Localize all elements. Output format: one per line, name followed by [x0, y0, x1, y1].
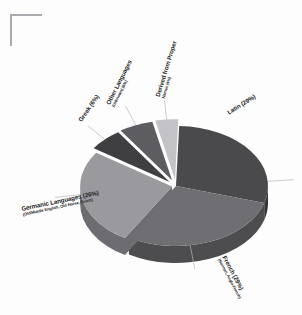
leader-line [88, 126, 105, 140]
pie-chart-graphic [0, 0, 302, 315]
pie-slices [80, 119, 268, 246]
chart-canvas: Latin (29%)French (29%)(Norman, Anglo-Fr… [0, 0, 302, 315]
leader-line [164, 100, 166, 119]
leader-line [126, 106, 136, 125]
leader-line [268, 180, 294, 182]
